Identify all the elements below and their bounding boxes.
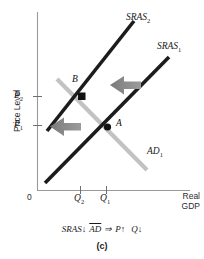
point-label-a: A	[116, 118, 122, 128]
caption-ad-overbar: AD	[89, 224, 101, 234]
caption-implies: ⇒	[104, 224, 112, 234]
caption-arrow-down-1: ↓	[82, 224, 87, 234]
x-tick-label-q2: Q2	[74, 193, 84, 205]
curve-label-sras2: SRAS2	[126, 12, 150, 24]
panel-label: (c)	[0, 241, 204, 251]
caption-sras: SRAS	[62, 224, 82, 234]
curve-label-ad1: AD1	[147, 146, 163, 158]
point-b-marker	[78, 93, 86, 101]
axis-lines	[37, 12, 190, 191]
origin-label: 0	[27, 192, 32, 202]
x-axis-title-line2: GDP	[182, 201, 200, 211]
point-a-marker	[104, 123, 111, 130]
x-axis-title: Real GDP	[182, 192, 200, 211]
figure-panel-c: Price Level Real GDP 0 P2 P1 Q2 Q1 SRAS2…	[0, 0, 204, 259]
y-tick-label-p1: P1	[14, 119, 23, 131]
y-tick-label-p2: P2	[14, 90, 23, 102]
caption-arrow-up: ↑	[121, 224, 126, 234]
aggregate-supply-demand-diagram	[0, 0, 204, 259]
curve-label-sras1: SRAS1	[157, 41, 181, 53]
caption-arrow-down-2: ↓	[138, 224, 143, 234]
figure-caption-equation: SRAS↓AD⇒P↑Q↓	[0, 224, 204, 234]
x-axis-title-line1: Real	[183, 191, 200, 201]
x-tick-label-q1: Q1	[100, 193, 110, 205]
point-label-b: B	[72, 74, 78, 84]
